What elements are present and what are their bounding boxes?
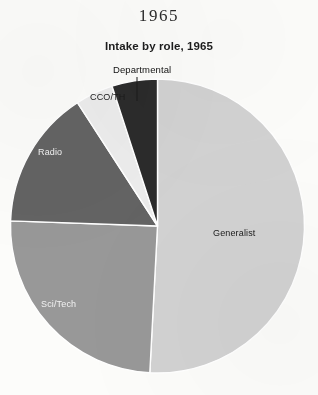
pie-label-departmental: Departmental (113, 64, 171, 75)
pie-slice-sci-tech[interactable] (11, 221, 158, 373)
page-canvas: 1965 Intake by role, 1965 Departmental C… (0, 0, 318, 395)
pie-label-radio: Radio (38, 147, 62, 157)
pie-label-ccoth: CCO/TH (90, 92, 125, 102)
pie-chart (0, 0, 318, 395)
pie-label-generalist: Generalist (213, 228, 256, 238)
pie-slice-generalist[interactable] (150, 79, 305, 373)
pie-label-scitech: Sci/Tech (41, 299, 76, 309)
pie-chart-svg (0, 0, 318, 395)
pie-slice-group (11, 79, 305, 373)
